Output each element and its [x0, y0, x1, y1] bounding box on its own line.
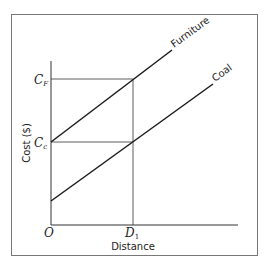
origin-label: O — [44, 226, 54, 240]
frame-border — [12, 15, 258, 256]
cost-distance-diagram: Furniture Coal CF Cc O D1 Distance Cost … — [0, 0, 268, 266]
coal-label: Coal — [210, 62, 234, 84]
cc-label: Cc — [34, 136, 47, 151]
d1-label: D1 — [124, 226, 139, 241]
furniture-line — [51, 50, 172, 142]
y-axis-title: Cost ($) — [21, 123, 32, 163]
cf-label: CF — [34, 73, 49, 88]
x-axis-title: Distance — [111, 241, 155, 252]
coal-line — [51, 84, 213, 201]
furniture-label: Furniture — [169, 14, 212, 49]
